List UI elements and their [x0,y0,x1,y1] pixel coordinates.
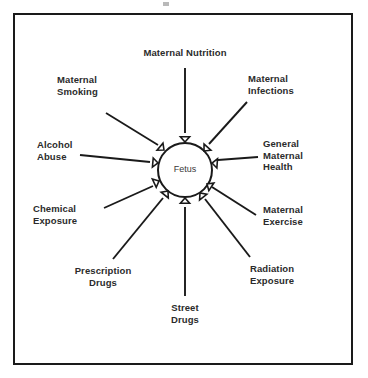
factor-label-alcohol-abuse: Alcohol Abuse [37,139,113,162]
line-prescription-drugs [113,198,163,259]
line-general-maternal-health [218,157,258,160]
factor-label-street-drugs: Street Drugs [150,302,220,325]
factor-label-general-maternal-health: General Maternal Health [263,138,343,173]
factor-label-maternal-nutrition: Maternal Nutrition [118,47,252,59]
factor-label-maternal-exercise: Maternal Exercise [263,204,343,227]
arrowhead-maternal-nutrition [180,137,189,142]
factor-label-maternal-smoking: Maternal Smoking [57,74,137,97]
arrowhead-street-drugs [180,198,189,203]
diagram-canvas: Fetus Maternal Nutrition Maternal Infect… [0,0,368,378]
line-maternal-exercise [212,187,256,215]
line-maternal-infections [209,102,247,144]
line-maternal-smoking [106,113,158,145]
factor-label-radiation-exposure: Radiation Exposure [250,263,336,286]
factor-label-maternal-infections: Maternal Infections [248,73,334,96]
factor-label-prescription-drugs: Prescription Drugs [57,265,149,288]
factor-label-chemical-exposure: Chemical Exposure [33,203,119,226]
center-node-label: Fetus [158,164,212,174]
